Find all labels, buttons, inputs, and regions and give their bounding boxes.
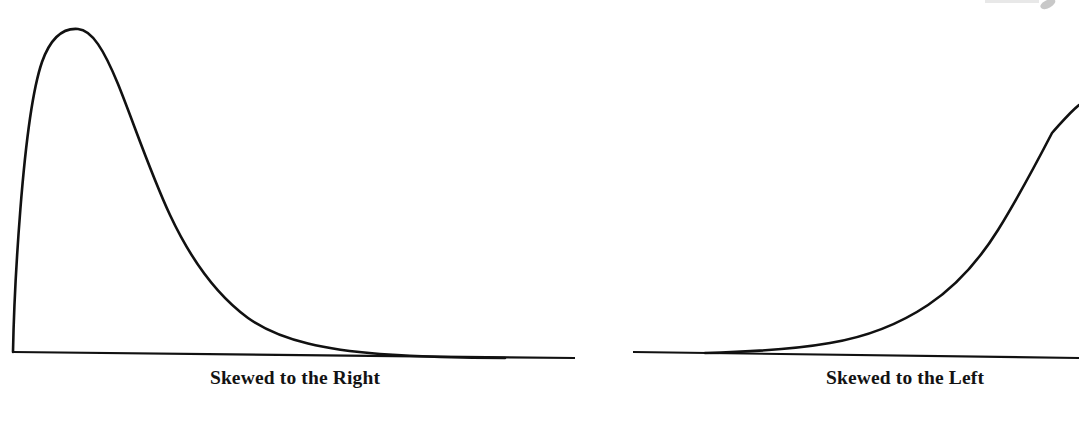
right-skewed-left-curve: [705, 105, 1079, 353]
right-baseline-axis: [633, 352, 1079, 358]
left-skewed-right-curve: [13, 29, 505, 358]
caption-skewed-to-the-right: Skewed to the Right: [210, 367, 380, 389]
caption-skewed-to-the-left: Skewed to the Left: [826, 367, 984, 389]
left-panel-group: [13, 29, 575, 358]
figure-root: Skewed to the Right Skewed to the Left: [0, 0, 1079, 432]
scan-streak-artifact: [985, 0, 1039, 3]
right-panel-group: [633, 105, 1079, 358]
